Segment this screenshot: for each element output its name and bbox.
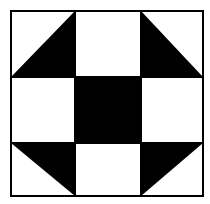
triangle-bottom-left: [11, 143, 75, 196]
center-square: [75, 77, 141, 143]
triangle-top-left: [11, 11, 75, 77]
triangle-bottom-right: [141, 143, 203, 196]
quilt-block-diagram: [0, 0, 210, 204]
triangle-top-right: [141, 11, 203, 77]
